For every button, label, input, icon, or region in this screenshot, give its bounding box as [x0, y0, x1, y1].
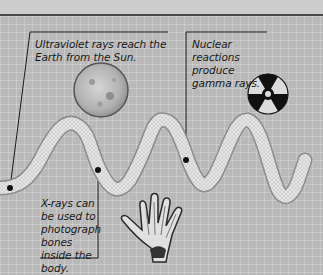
electromagnetic-wave: [0, 120, 305, 197]
diagram-page: Ultraviolet rays reach the Earth from th…: [0, 0, 323, 275]
uv-pointer-dot: [7, 185, 13, 191]
gamma-pointer-dot: [183, 157, 189, 163]
sun-icon: [74, 63, 128, 117]
xray-hand-icon: [121, 194, 181, 263]
gamma-caption: Nuclear reactions produce gamma rays.: [192, 38, 274, 90]
xray-caption: X-rays can be used to photograph bones i…: [41, 197, 97, 275]
uv-caption: Ultraviolet rays reach the Earth from th…: [35, 38, 175, 64]
xray-pointer-dot: [95, 167, 101, 173]
